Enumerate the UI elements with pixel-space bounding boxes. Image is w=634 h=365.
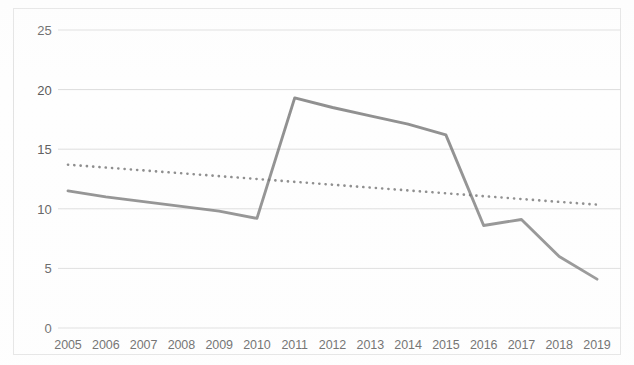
x-axis-tick-label: 2015 <box>432 338 459 352</box>
x-axis-tick-label: 2005 <box>54 338 81 352</box>
plot-area: 2520151050 20052006200720082009201020112… <box>0 0 634 365</box>
x-axis-tick-label: 2013 <box>357 338 384 352</box>
x-axis-tick-label: 2018 <box>545 338 572 352</box>
x-axis-tick-label: 2014 <box>394 338 421 352</box>
y-axis-tick-label: 20 <box>18 82 52 97</box>
x-axis-tick-labels: 2005200620072008200920102011201220132014… <box>0 338 634 358</box>
x-axis-tick-label: 2011 <box>281 338 307 352</box>
x-axis-tick-label: 2010 <box>243 338 270 352</box>
x-axis-tick-label: 2006 <box>92 338 119 352</box>
x-axis-tick-label: 2019 <box>583 338 610 352</box>
line-chart-figure: 2520151050 20052006200720082009201020112… <box>0 0 634 365</box>
y-axis-tick-label: 25 <box>18 23 52 38</box>
trendline-path <box>68 165 597 205</box>
x-axis-tick-label: 2012 <box>319 338 346 352</box>
y-axis-tick-label: 10 <box>18 201 52 216</box>
y-axis-tick-label: 15 <box>18 142 52 157</box>
data-line-path <box>68 98 597 279</box>
data-series-layer <box>0 0 634 365</box>
x-axis-tick-label: 2007 <box>130 338 157 352</box>
x-axis-tick-label: 2016 <box>470 338 497 352</box>
x-axis-tick-label: 2008 <box>168 338 195 352</box>
x-axis-tick-label: 2009 <box>205 338 232 352</box>
x-axis-tick-label: 2017 <box>508 338 535 352</box>
y-axis-tick-label: 0 <box>18 321 52 336</box>
y-axis-tick-label: 5 <box>18 261 52 276</box>
